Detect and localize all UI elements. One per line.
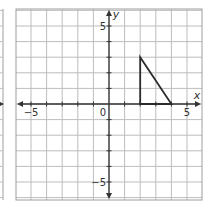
axes — [17, 10, 201, 199]
coordinate-plane-figure: −5055−5xy — [0, 0, 214, 217]
coordinate-plane: −5055−5xy — [0, 0, 214, 217]
y-axis-label: y — [112, 8, 120, 21]
y-tick-label: 5 — [100, 21, 106, 32]
x-axis-label: x — [193, 89, 201, 102]
adjacent-panel-edge — [0, 9, 4, 200]
x-tick-label: 5 — [184, 107, 190, 118]
x-tick-label: 0 — [100, 107, 106, 118]
x-tick-label: −5 — [24, 107, 39, 118]
axis-labels: −5055−5xy — [24, 8, 201, 188]
y-tick-label: −5 — [91, 177, 106, 188]
x-axis-left-arrow-icon — [17, 101, 23, 107]
